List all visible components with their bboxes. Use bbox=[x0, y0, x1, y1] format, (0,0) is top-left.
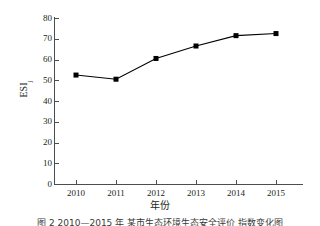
series-line bbox=[76, 34, 276, 80]
figure-container: 01020304050607080 2010201120122013201420… bbox=[0, 0, 320, 226]
data-point-marker bbox=[194, 44, 199, 49]
data-point-marker bbox=[74, 73, 79, 78]
data-point-marker bbox=[274, 31, 279, 36]
data-point-marker bbox=[114, 77, 119, 82]
series-markers bbox=[74, 31, 279, 82]
figure-caption: 图 2 2010—2015 年 某市生态环境生态安全评价 指数变化图 bbox=[0, 218, 320, 226]
data-series-layer bbox=[0, 0, 320, 226]
data-point-marker bbox=[234, 33, 239, 38]
data-point-marker bbox=[154, 56, 159, 61]
